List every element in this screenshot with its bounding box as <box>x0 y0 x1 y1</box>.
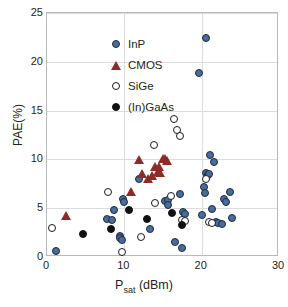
scatter-chart: InP CMOS SiGe (In)GaAs <box>0 0 288 307</box>
legend-label-ingaas: (In)GaAs <box>128 101 174 113</box>
data-point-ingaas <box>79 230 87 238</box>
data-point-inp <box>218 220 226 228</box>
x-tick-label: 20 <box>186 260 216 271</box>
data-point-inp <box>110 206 118 214</box>
legend-item-sige: SiGe <box>109 75 205 96</box>
gridline-horizontal <box>47 208 277 209</box>
data-point-cmos <box>61 211 71 220</box>
data-point-sige <box>151 199 159 207</box>
data-point-sige <box>48 224 56 232</box>
data-point-inp <box>208 205 216 213</box>
filled-circle-black-icon <box>109 100 123 114</box>
x-axis-label-unit: (dBm) <box>135 278 173 292</box>
legend-label-sige: SiGe <box>128 80 154 92</box>
data-point-inp <box>146 225 154 233</box>
legend-item-ingaas: (In)GaAs <box>109 96 205 117</box>
data-point-ingaas <box>107 225 115 233</box>
data-point-sige <box>167 192 175 200</box>
y-tick-label: 20 <box>13 56 43 67</box>
data-point-inp <box>52 247 60 255</box>
data-point-inp <box>198 211 206 219</box>
open-circle-icon <box>109 79 123 93</box>
data-point-sige <box>104 188 112 196</box>
x-axis-label-subscript: sat <box>123 285 135 295</box>
y-tick-label: 5 <box>13 202 43 213</box>
y-axis-label: PAE(%) <box>11 85 25 165</box>
data-point-cmos <box>155 168 165 177</box>
filled-triangle-red-icon <box>109 58 123 72</box>
legend-item-inp: InP <box>109 33 205 54</box>
y-tick-label: 25 <box>13 7 43 18</box>
plot-area: InP CMOS SiGe (In)GaAs <box>46 12 278 256</box>
data-point-ingaas <box>143 215 151 223</box>
data-point-cmos <box>126 187 136 196</box>
data-point-inp <box>228 214 236 222</box>
data-point-inp <box>178 244 186 252</box>
data-point-inp <box>222 198 230 206</box>
data-point-inp <box>226 188 234 196</box>
data-point-ingaas <box>125 206 133 214</box>
data-point-inp <box>176 190 184 198</box>
chart-legend: InP CMOS SiGe (In)GaAs <box>109 33 205 117</box>
gridline-horizontal <box>47 13 277 14</box>
data-point-ingaas <box>168 209 176 217</box>
data-point-sige <box>137 233 145 241</box>
data-point-inp <box>108 216 116 224</box>
data-point-inp <box>120 198 128 206</box>
x-tick-label: 0 <box>31 260 61 271</box>
legend-item-cmos: CMOS <box>109 54 205 75</box>
data-point-cmos <box>134 155 144 164</box>
data-point-cmos <box>162 156 172 165</box>
filled-circle-blue-icon <box>109 37 123 51</box>
x-axis-label: Psat (dBm) <box>0 278 288 295</box>
legend-label-inp: InP <box>128 38 145 50</box>
data-point-sige <box>176 132 184 140</box>
x-tick-label: 30 <box>263 260 288 271</box>
x-tick-label: 10 <box>108 260 138 271</box>
legend-label-cmos: CMOS <box>128 59 163 71</box>
data-point-inp <box>210 158 218 166</box>
data-point-inp <box>201 189 209 197</box>
data-point-sige <box>150 141 158 149</box>
data-point-ingaas <box>178 221 186 229</box>
data-point-sige <box>202 175 210 183</box>
